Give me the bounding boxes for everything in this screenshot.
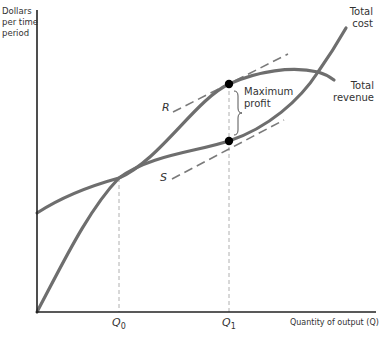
- y-axis-label-line2: per time: [2, 17, 42, 28]
- tangent-s-label: S: [160, 171, 167, 184]
- total-cost-label-line1: Total: [335, 6, 373, 18]
- tr-point-q1: [225, 80, 233, 88]
- max-profit-label: Maximum profit: [244, 86, 293, 110]
- q0-tick-label: Q0: [112, 316, 126, 331]
- y-axis-label-line3: period: [2, 28, 42, 39]
- total-revenue-label-line1: Total: [316, 80, 374, 92]
- y-axis-label: Dollars per time period: [2, 6, 42, 39]
- tangent-r-label: R: [162, 101, 170, 114]
- max-profit-label-line1: Maximum: [244, 86, 293, 98]
- q0-sub: 0: [121, 322, 126, 331]
- total-cost-label: Total cost: [335, 6, 373, 30]
- total-revenue-label-line2: revenue: [316, 92, 374, 104]
- profit-max-chart: [0, 0, 384, 341]
- max-profit-label-line2: profit: [244, 98, 293, 110]
- x-axis-label: Quantity of output (Q): [290, 318, 379, 327]
- max-profit-brace: [234, 91, 242, 135]
- y-axis-label-line1: Dollars: [2, 6, 42, 17]
- q1-sub: 1: [231, 322, 236, 331]
- q1-tick-label: Q1: [222, 316, 236, 331]
- tangent-line-s: [172, 120, 284, 179]
- total-revenue-label: Total revenue: [316, 80, 374, 104]
- total-cost-label-line2: cost: [335, 18, 373, 30]
- q1-base: Q: [222, 316, 231, 329]
- q0-base: Q: [112, 316, 121, 329]
- tc-point-q1: [225, 137, 233, 145]
